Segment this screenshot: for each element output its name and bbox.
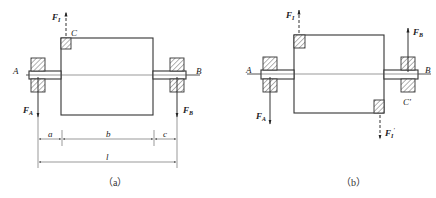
force-fa-label: FA [255,111,266,122]
support-a-label: A [245,65,252,75]
bearing-b-top [170,58,184,71]
force-fb-label: FB [412,27,423,38]
point-c-label: C [71,28,78,38]
support-a-label: A [12,66,19,76]
force-fa-label: FA [22,105,33,116]
bearing-b-bottom [401,79,415,92]
unbalance-mass-c [294,35,305,48]
unbalance-mass-c [61,38,71,49]
panel-a: FI C FA FB A B a b c l （a） [12,12,202,188]
rotor-diagram: FI C FA FB A B a b c l （a） [0,0,436,198]
force-fi-prime-label: FI' [384,127,395,139]
support-b-label: B [425,65,431,75]
panel-b: FI FI' FA FB A B C' （b） [245,10,431,188]
caption-b: （b） [341,177,366,188]
dim-a-label: a [48,129,53,139]
bearing-a-top [263,57,277,70]
dim-c-label: c [163,129,167,139]
bearing-a-top [31,58,45,71]
dim-l-label: l [106,152,109,162]
force-fi-label: FI [285,10,295,21]
support-b-label: B [196,66,202,76]
rotor-disk [61,38,153,115]
force-fb-label: FB [182,105,193,116]
shaft-right [384,70,418,79]
point-c-prime-label: C' [403,97,412,107]
unbalance-mass-c-prime [374,100,384,113]
shaft-left [261,70,294,79]
caption-a: （a） [103,177,127,188]
dim-b-label: b [106,129,111,139]
force-fi-label: FI [51,12,61,23]
